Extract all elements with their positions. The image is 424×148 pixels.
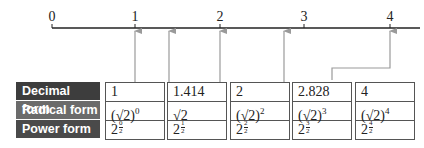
radical-cell: (√2)4: [356, 102, 414, 121]
decimal-cell: 1.414: [168, 83, 226, 102]
radical-cell: (√2)3: [293, 102, 351, 121]
table-column: 2.828 (√2)3 232: [292, 82, 352, 140]
table-column: 1.414 √2 212: [167, 82, 227, 140]
row-label-decimal: Decimal form: [16, 82, 100, 100]
decimal-cell: 1: [106, 83, 164, 102]
decimal-cell: 2: [231, 83, 289, 102]
power-cell: 212: [168, 121, 226, 139]
power-cell: 202: [106, 121, 164, 139]
tick-label-4: 4: [387, 9, 394, 25]
radical-cell: (√2)2: [231, 102, 289, 121]
tick-label-3: 3: [301, 9, 308, 25]
row-label-power: Power form: [16, 120, 100, 138]
power-cell: 222: [231, 121, 289, 139]
decimal-cell: 4: [356, 83, 414, 102]
tick-label-2: 2: [217, 9, 224, 25]
power-cell: 232: [293, 121, 351, 139]
power-cell: 242: [356, 121, 414, 139]
decimal-cell: 2.828: [293, 83, 351, 102]
row-label-radical: Radical form: [16, 101, 100, 119]
radical-cell: √2: [168, 102, 226, 121]
tick-label-0: 0: [49, 9, 56, 25]
tick-label-1: 1: [132, 9, 139, 25]
table-column: 2 (√2)2 222: [230, 82, 290, 140]
radical-cell: (√2)0: [106, 102, 164, 121]
row-labels: Decimal form Radical form Power form: [16, 82, 100, 139]
table-column: 4 (√2)4 242: [355, 82, 415, 140]
table-column: 1 (√2)0 202: [105, 82, 165, 140]
arrow-4: [332, 31, 390, 80]
